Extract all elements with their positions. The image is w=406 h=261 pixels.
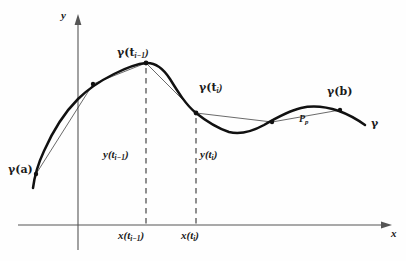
label-x-t-prev: x(ti−1) (118, 230, 144, 241)
label-gamma-b: γ(b) (327, 86, 352, 97)
x-t-cur-base: x(t (181, 229, 193, 241)
point-gamma-t-cur (194, 111, 199, 116)
y-t-cur-close: ) (214, 148, 218, 160)
gamma-glyph-a: γ(a) (8, 163, 33, 176)
gamma-glyph: γ (371, 117, 378, 130)
label-x-t-cur: x(ti) (181, 230, 199, 241)
gamma-t-cur-base: γ(t (199, 81, 217, 94)
y-t-prev-base: y(t (103, 148, 115, 160)
point-gamma-a (34, 172, 38, 176)
figure-canvas: y x γ(a) γ(ti−1) γ(ti) γ(b) γ Pp y(ti−1)… (0, 0, 406, 261)
label-gamma-t-cur: γ(ti) (199, 82, 222, 93)
sample-points-group (34, 61, 342, 177)
y-axis-label: y (61, 10, 66, 21)
curve-diagram-svg (0, 0, 406, 261)
point-node-2 (270, 120, 274, 124)
label-gamma-t-prev: γ(ti−1) (117, 47, 149, 58)
x-t-prev-base: x(t (118, 229, 130, 241)
x-t-prev-sub: i−1 (130, 234, 140, 243)
label-curve-gamma: γ (371, 118, 378, 129)
point-node-1 (91, 82, 95, 86)
x-axis-label: x (391, 228, 397, 239)
point-gamma-b (338, 108, 342, 112)
y-t-prev-close: ) (125, 148, 129, 160)
inscribed-polyline-group (36, 63, 340, 174)
y-t-prev-sub: i−1 (115, 153, 125, 162)
dropline-group (146, 68, 196, 225)
inscribed-polyline (36, 63, 340, 174)
x-t-cur-close: ) (195, 229, 199, 241)
gamma-t-cur-sub: i (217, 86, 219, 95)
y-t-cur-sub: i (212, 153, 214, 162)
polygon-sub: p (305, 118, 308, 125)
label-y-t-prev: y(ti−1) (103, 149, 129, 160)
y-axis-arrow (75, 14, 82, 25)
gamma-t-prev-sub: i−1 (135, 51, 145, 60)
label-y-t-cur: y(ti) (200, 149, 217, 160)
point-gamma-t-prev (144, 61, 149, 66)
y-t-cur-base: y(t (200, 148, 212, 160)
label-gamma-a: γ(a) (8, 164, 33, 175)
axes-group (18, 14, 392, 250)
gamma-t-cur-close: ) (219, 81, 223, 93)
gamma-t-prev-close: ) (145, 46, 149, 58)
gamma-t-prev-base: γ(t (117, 46, 135, 59)
x-t-prev-close: ) (141, 229, 145, 241)
label-polygon-p: Pp (299, 114, 309, 124)
gamma-glyph-b: γ(b) (327, 85, 352, 98)
